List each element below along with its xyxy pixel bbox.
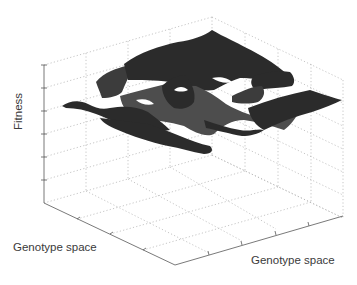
z-axis-label: Fitness [12, 93, 24, 130]
floor-grid [77, 155, 343, 253]
x-axis-label: Genotype space [13, 241, 97, 253]
x-axis-line [44, 203, 175, 265]
y-axis-label: Genotype space [251, 254, 335, 266]
fitness-surface [62, 30, 342, 154]
